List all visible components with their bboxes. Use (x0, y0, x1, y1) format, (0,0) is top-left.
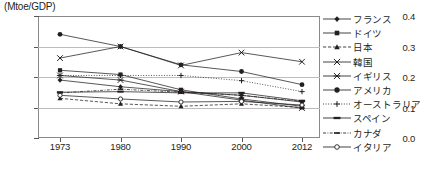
legend-item-スペイン[interactable]: スペイン (322, 111, 415, 125)
legend-label: 日本 (353, 40, 372, 54)
legend-item-ドイツ[interactable]: ドイツ (322, 26, 415, 40)
legend-label: スペイン (353, 111, 391, 125)
legend-label: ドイツ (353, 26, 382, 40)
data-point-marker (334, 132, 340, 134)
data-point-marker (239, 69, 244, 74)
legend-marker-plus-icon (322, 97, 352, 111)
legend-item-イタリア[interactable]: イタリア (322, 140, 415, 154)
data-point-marker (58, 32, 63, 37)
legend-marker-triangle-icon (322, 40, 352, 54)
legend-item-カナダ[interactable]: カナダ (322, 126, 415, 140)
legend-label: イタリア (353, 140, 392, 154)
legend-marker-opencircle-icon (322, 140, 352, 154)
legend-marker-bar-icon (322, 111, 352, 125)
data-point-marker (58, 93, 62, 97)
legend-item-イギリス[interactable]: イギリス (322, 69, 415, 83)
legend-marker-circle-icon (322, 83, 352, 97)
data-point-marker (300, 82, 305, 87)
data-point-marker (335, 144, 340, 149)
legend-marker-cross-icon (322, 55, 352, 69)
legend-marker-asterisk-icon (322, 69, 352, 83)
data-point-marker (299, 101, 304, 102)
data-point-marker (179, 100, 183, 104)
legend-label: アメリカ (353, 83, 392, 97)
legend-marker-smalldash-icon (322, 126, 352, 140)
data-point-marker (335, 31, 340, 36)
legend-item-日本[interactable]: 日本 (322, 40, 415, 54)
data-point-marker (334, 117, 341, 119)
data-point-marker (238, 92, 244, 94)
data-point-marker (118, 88, 123, 89)
legend: フランスドイツ日本韓国イギリスアメリカオーストラリアスペインカナダイタリア (322, 12, 415, 154)
data-point-marker (179, 62, 184, 67)
data-point-marker (334, 101, 340, 107)
data-point-marker (178, 73, 183, 78)
legend-marker-square-icon (322, 26, 352, 40)
data-point-marker (58, 77, 63, 82)
data-point-marker (118, 101, 123, 106)
data-point-marker (118, 97, 122, 101)
legend-label: カナダ (353, 126, 382, 140)
legend-label: イギリス (353, 69, 392, 83)
data-point-marker (118, 44, 123, 49)
data-point-marker (239, 95, 244, 96)
data-point-marker (334, 73, 341, 79)
legend-item-オーストラリア[interactable]: オーストラリア (322, 97, 415, 111)
data-point-marker (300, 103, 304, 107)
legend-label: オーストラリア (353, 97, 421, 111)
series-アメリカ (58, 32, 305, 87)
legend-item-フランス[interactable]: フランス (322, 12, 415, 26)
legend-item-アメリカ[interactable]: アメリカ (322, 83, 415, 97)
data-point-marker (58, 68, 62, 72)
legend-label: 韓国 (353, 55, 372, 69)
data-point-marker (239, 78, 244, 83)
data-point-marker (299, 89, 304, 94)
legend-marker-diamond-icon (322, 12, 352, 26)
data-point-marker (178, 92, 183, 93)
data-point-marker (239, 99, 243, 103)
data-point-marker (117, 91, 123, 93)
legend-label: フランス (353, 12, 392, 26)
legend-item-韓国[interactable]: 韓国 (322, 55, 415, 69)
data-point-marker (334, 16, 339, 22)
data-point-marker (334, 87, 339, 92)
